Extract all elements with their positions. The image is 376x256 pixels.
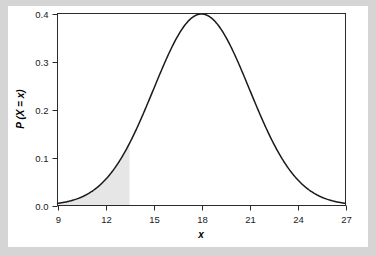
x-tick-label: 9 <box>56 214 61 225</box>
x-axis-tick-labels: 9121518212427 <box>56 214 352 225</box>
x-tick-label: 12 <box>101 214 112 225</box>
shaded-area-lower-tail <box>58 143 130 205</box>
y-tick-label: 0.2 <box>35 105 48 116</box>
x-tick-label: 27 <box>341 214 352 225</box>
chart-card: 9121518212427 0.00.10.20.30.4 x P (X = x… <box>8 6 368 247</box>
plot-frame <box>58 14 346 206</box>
y-axis-ticks <box>53 15 58 207</box>
x-tick-label: 15 <box>149 214 160 225</box>
x-tick-label: 21 <box>245 214 256 225</box>
y-tick-label: 0.4 <box>35 9 48 20</box>
y-axis-title: P (X = x) <box>15 89 26 129</box>
x-axis-ticks <box>59 206 347 211</box>
y-tick-label: 0.3 <box>35 57 48 68</box>
normal-distribution-chart: 9121518212427 0.00.10.20.30.4 x P (X = x… <box>8 6 368 247</box>
y-tick-label: 0.1 <box>35 153 48 164</box>
density-curve <box>58 14 346 203</box>
figure-root: 9121518212427 0.00.10.20.30.4 x P (X = x… <box>0 0 376 256</box>
y-axis-tick-labels: 0.00.10.20.30.4 <box>35 9 48 212</box>
x-tick-label: 24 <box>293 214 304 225</box>
x-tick-label: 18 <box>197 214 208 225</box>
x-axis-title: x <box>197 229 204 240</box>
y-tick-label: 0.0 <box>35 201 48 212</box>
